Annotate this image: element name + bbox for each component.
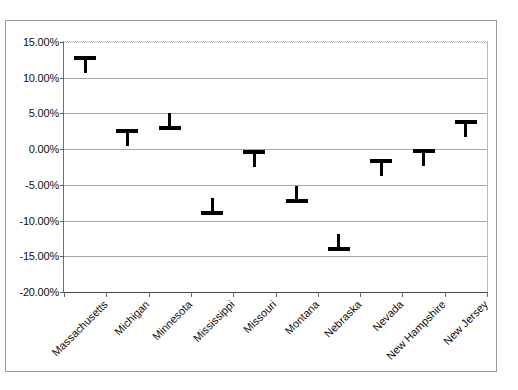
x-axis-category-label-text: Missouri (241, 298, 278, 335)
data-marker-stem (84, 60, 87, 73)
y-axis-tick-label: 15.00% (23, 36, 59, 48)
gridline (64, 113, 487, 114)
x-axis-category-label-text: Massachusetts (49, 298, 109, 358)
gridline (64, 256, 487, 257)
data-marker-stem (337, 234, 340, 247)
x-axis-category-label-text: Mississippi (190, 298, 236, 344)
y-axis-tick-label: -20.00% (19, 286, 59, 298)
data-marker-cap (159, 126, 181, 130)
x-axis-category-label-text: New Jersey (441, 298, 490, 347)
x-axis-tick-mark (445, 292, 446, 297)
data-marker-stem (295, 186, 298, 199)
x-axis-tick-mark (191, 292, 192, 297)
y-axis-tick-label: 10.00% (23, 72, 59, 84)
data-marker-cap (286, 199, 308, 203)
y-axis-tick-mark (60, 221, 64, 222)
y-axis-tick-label: -15.00% (19, 250, 59, 262)
y-axis-tick-mark (60, 113, 64, 114)
data-marker-stem (253, 154, 256, 167)
x-axis-category-label-text: Montana (282, 298, 321, 337)
data-marker-cap (201, 211, 223, 215)
y-axis-tick-label: 0.00% (29, 143, 59, 155)
data-marker-stem (211, 198, 214, 211)
y-axis-tick-mark (60, 149, 64, 150)
x-axis-category-label-text: Nebraska (322, 298, 364, 340)
x-axis-tick-mark (487, 292, 488, 297)
x-axis-tick-mark (402, 292, 403, 297)
data-marker-stem (380, 163, 383, 176)
y-axis-tick-mark (60, 256, 64, 257)
x-axis-category-label-text: Michigan (112, 298, 152, 338)
chart-outer-frame: 15.00%10.00%5.00%0.00%-5.00%-10.00%-15.0… (5, 20, 497, 372)
y-axis-tick-mark (60, 42, 64, 43)
x-axis-tick-mark (233, 292, 234, 297)
gridline (64, 221, 487, 222)
data-marker-stem (126, 133, 129, 146)
data-marker-stem (168, 113, 171, 126)
gridline (64, 78, 487, 79)
y-axis-tick-label: -10.00% (19, 215, 59, 227)
x-axis-category-label-text: Minnesota (150, 298, 194, 342)
data-marker-stem (464, 124, 467, 137)
y-axis-tick-label: 5.00% (29, 107, 59, 119)
x-axis-category-label-text: Nevada (370, 298, 405, 333)
data-marker-stem (422, 153, 425, 166)
y-axis-tick-mark (60, 78, 64, 79)
x-axis-tick-mark (106, 292, 107, 297)
x-axis-tick-mark (64, 292, 65, 297)
y-axis-tick-label: -5.00% (25, 179, 59, 191)
gridline (64, 185, 487, 186)
y-axis-tick-mark (60, 185, 64, 186)
x-axis-tick-mark (276, 292, 277, 297)
gridline (64, 42, 487, 43)
x-axis-tick-mark (149, 292, 150, 297)
x-axis-tick-mark (360, 292, 361, 297)
plot-area: 15.00%10.00%5.00%0.00%-5.00%-10.00%-15.0… (63, 41, 488, 293)
x-axis-tick-mark (318, 292, 319, 297)
data-marker-cap (328, 247, 350, 251)
